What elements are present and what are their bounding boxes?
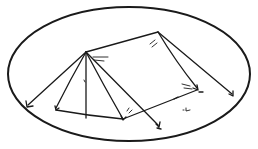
front-panel-left-edge	[56, 52, 86, 108]
side-base	[123, 90, 197, 119]
front-pole-hatch	[93, 57, 108, 61]
enclosing-ellipse	[8, 7, 250, 141]
front-panel-right-edge	[86, 52, 123, 119]
front-right-guy-line	[86, 52, 158, 125]
front-left-guy-line	[28, 52, 86, 105]
small-mark	[183, 108, 190, 111]
tent-sketch-svg	[0, 0, 258, 149]
tent-drawing	[26, 32, 233, 129]
back-pole-hatch	[150, 40, 157, 47]
front-base	[56, 110, 123, 119]
ridge-line	[86, 32, 158, 52]
pole-tick	[84, 80, 85, 82]
front-corner-hatch	[127, 108, 132, 113]
back-corner-hatch	[182, 84, 192, 89]
tent-sketch: Hand-drawn line sketch of a tent with gu…	[0, 0, 258, 149]
